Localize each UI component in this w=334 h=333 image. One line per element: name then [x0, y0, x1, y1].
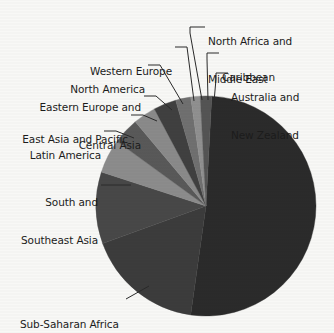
pie-chart-figure: North Africa and Middle East Caribbean A…: [0, 0, 334, 333]
leader-line-north-africa-middle-east-stem: [190, 33, 202, 100]
label-australia-new-zealand-line1: Australia and: [231, 91, 299, 104]
label-sub-saharan-africa: Sub-Saharan Africa: [20, 293, 119, 333]
label-australia-new-zealand: Australia and New Zealand: [231, 66, 299, 167]
label-south-southeast-asia: South and Southeast Asia: [10, 171, 98, 272]
label-sub-saharan-africa-line1: Sub-Saharan Africa: [20, 318, 119, 331]
label-australia-new-zealand-line2: New Zealand: [231, 129, 299, 142]
leader-line-north-africa-middle-east: [190, 27, 205, 33]
leader-line-western-europe-stem: [187, 47, 194, 101]
label-south-southeast-asia-line2: Southeast Asia: [10, 234, 98, 247]
label-south-southeast-asia-line1: South and: [10, 196, 98, 209]
label-latin-america-line1: Latin America: [18, 149, 101, 162]
